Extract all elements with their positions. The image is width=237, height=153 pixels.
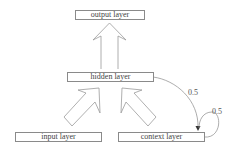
output-layer-node: output layer [75,10,145,20]
hidden-layer-label: hidden layer [91,72,131,81]
input-layer-label: input layer [41,132,75,141]
context-layer-label: context layer [141,132,183,141]
arrowhead-icon [196,126,201,131]
hidden-layer-node: hidden layer [67,72,154,82]
arrow-hidden-to-output [93,23,126,69]
input-layer-node: input layer [15,132,102,142]
weight-label-hidden-to-context: 0.5 [188,89,198,97]
context-layer-node: context layer [118,132,205,142]
arrow-context-to-hidden [121,88,156,126]
output-layer-label: output layer [91,10,129,19]
weight-label-self-loop: 0.5 [212,108,222,116]
arrow-input-to-hidden [64,88,100,126]
arrow-hidden-to-context [153,77,198,128]
